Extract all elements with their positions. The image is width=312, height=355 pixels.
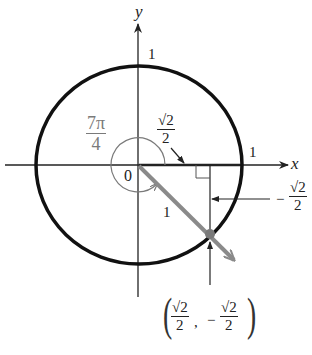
point-x-numerator: √2 [171, 300, 189, 315]
y-coordinate-label: √2 2 [289, 180, 307, 213]
right-angle-marker [196, 165, 210, 178]
unit-circle-diagram [0, 0, 312, 355]
point-x-denominator: 2 [175, 318, 185, 333]
angle-label: 7π 4 [86, 114, 106, 153]
radius-label: 1 [163, 205, 171, 220]
point-comma: , [194, 315, 198, 330]
point-y-label: √2 2 [220, 300, 238, 333]
y-coordinate-numerator: √2 [289, 180, 307, 195]
right-paren: ) [247, 292, 256, 338]
point-y-numerator: √2 [220, 300, 238, 315]
x-coordinate-pointer [171, 148, 184, 163]
x-coordinate-denominator: 2 [161, 131, 171, 146]
origin-label: 0 [124, 168, 132, 184]
radius-vector [139, 166, 234, 260]
angle-denominator: 4 [91, 135, 102, 153]
x-coordinate-numerator: √2 [157, 113, 175, 128]
x-tick-one-label: 1 [249, 145, 257, 160]
angle-numerator: 7π [86, 114, 106, 132]
point-y-denominator: 2 [224, 318, 234, 333]
x-axis-label: x [291, 155, 299, 172]
point-x-label: √2 2 [171, 300, 189, 333]
x-coordinate-label: √2 2 [157, 113, 175, 146]
y-coordinate-sign: − [276, 191, 284, 208]
y-tick-one-label: 1 [148, 47, 156, 62]
point-on-circle [205, 229, 215, 239]
point-y-sign: − [207, 312, 215, 329]
y-coordinate-denominator: 2 [293, 198, 303, 213]
y-axis-label: y [135, 3, 143, 20]
